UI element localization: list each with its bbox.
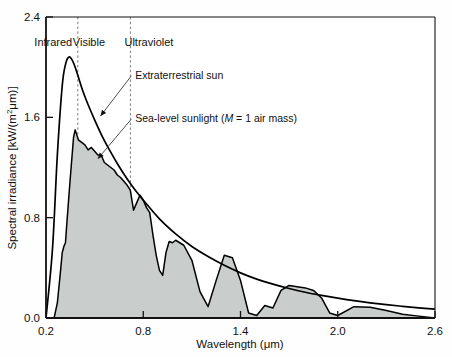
x-tick-label: 0.8: [135, 325, 151, 337]
x-axis-title: Wavelength (μm): [196, 338, 284, 350]
band-label-visible: Visible: [73, 36, 105, 48]
x-axis-tick-labels: 0.20.81.42.02.6: [38, 325, 443, 337]
spectral-irradiance-chart: 0.00.81.62.4 0.20.81.42.02.6 InfraredVis…: [0, 0, 452, 357]
y-tick-label: 0.8: [24, 212, 40, 224]
y-tick-label: 1.6: [24, 111, 40, 123]
y-axis-title: Spectral irradiance [kW/(m2μm)]: [5, 86, 18, 249]
band-label-infrared: Infrared: [34, 36, 72, 48]
annotation-extraterrestrial-sun: Extraterrestrial sun: [135, 69, 223, 81]
figure-container: 0.00.81.62.4 0.20.81.42.02.6 InfraredVis…: [0, 0, 452, 357]
y-axis-tick-labels: 0.00.81.62.4: [24, 11, 41, 324]
x-tick-label: 2.0: [330, 325, 346, 337]
y-tick-label: 2.4: [24, 11, 41, 23]
annotation-sea-level-sunlight: Sea-level sunlight (M = 1 air mass): [135, 112, 297, 124]
x-tick-label: 0.2: [38, 325, 54, 337]
x-tick-label: 2.6: [427, 325, 443, 337]
x-tick-label: 1.4: [233, 325, 250, 337]
wavelength-band-labels: InfraredVisibleUltraviolet: [34, 36, 173, 48]
y-tick-label: 0.0: [24, 312, 40, 324]
band-label-ultraviolet: Ultraviolet: [124, 36, 173, 48]
